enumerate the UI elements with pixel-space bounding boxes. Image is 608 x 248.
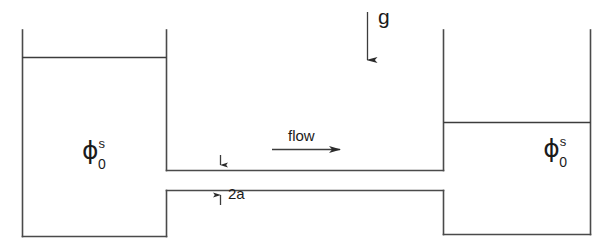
phi-symbol: ϕ <box>543 134 560 163</box>
phi-superscript: s <box>560 134 567 149</box>
diagram-canvas <box>0 0 608 248</box>
flow-diagram: g flow 2a ϕs0 ϕs0 <box>0 0 608 248</box>
channel <box>167 171 444 191</box>
left-reservoir-potential-label: ϕs0 <box>82 138 113 167</box>
channel-height-label: 2a <box>228 186 245 201</box>
right-reservoir <box>444 30 591 235</box>
left-reservoir <box>22 30 167 237</box>
phi-subscript: 0 <box>98 156 106 172</box>
gravity-label: g <box>378 6 390 27</box>
phi-subscript: 0 <box>559 154 567 170</box>
right-reservoir-potential-label: ϕs0 <box>543 136 574 165</box>
flow-label: flow <box>288 128 315 143</box>
phi-superscript: s <box>99 136 106 151</box>
phi-symbol: ϕ <box>82 136 99 165</box>
